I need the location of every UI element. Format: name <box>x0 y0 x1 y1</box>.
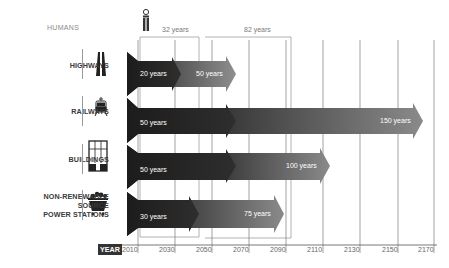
tick-2110: 2110 <box>307 246 322 253</box>
separator <box>82 144 83 174</box>
row-label-line: NON-RENEWABLE <box>43 192 109 201</box>
arrow-label-buildings-long: 100 years <box>286 162 317 169</box>
arrow-railways <box>127 98 423 143</box>
chart-canvas <box>0 0 449 268</box>
bracket-label-82: 82 years <box>244 26 271 33</box>
arrow-label-power-short: 30 years <box>140 213 167 220</box>
bracket-label-32: 32 years <box>162 26 189 33</box>
arrow-label-highways-long: 50 years <box>196 70 223 77</box>
human-icon <box>143 9 149 31</box>
arrow-label-buildings-short: 50 years <box>140 166 167 173</box>
separator <box>82 49 83 79</box>
arrow-label-highways-short: 20 years <box>140 70 167 77</box>
row-label-railways: RAILWAYS <box>71 107 109 116</box>
separator <box>82 190 83 220</box>
row-label-power-stations: NON-RENEWABLE SOURCE POWER STATIONS <box>43 192 109 219</box>
tick-2130: 2130 <box>344 246 360 253</box>
arrow-label-railways-long: 150 years <box>380 117 411 124</box>
tick-2090: 2090 <box>270 246 286 253</box>
tick-2170: 2170 <box>418 246 434 253</box>
tick-2030: 2030 <box>159 246 175 253</box>
arrow-label-railways-short: 50 years <box>140 119 167 126</box>
tick-2070: 2070 <box>233 246 249 253</box>
tick-2010: 2010 <box>122 246 138 253</box>
arrow-label-power-long: 75 years <box>244 210 271 217</box>
tick-2150: 2150 <box>382 246 398 253</box>
row-label-line: POWER STATIONS <box>43 210 109 219</box>
humans-label: HUMANS <box>47 24 79 31</box>
row-label-highways: HIGHWAYS <box>70 61 109 70</box>
row-label-line: SOURCE <box>43 201 109 210</box>
separator <box>82 96 83 126</box>
row-label-buildings: BUILDINGS <box>69 155 109 164</box>
year-axis-label: YEAR <box>98 244 122 255</box>
tick-2050: 2050 <box>196 246 212 253</box>
